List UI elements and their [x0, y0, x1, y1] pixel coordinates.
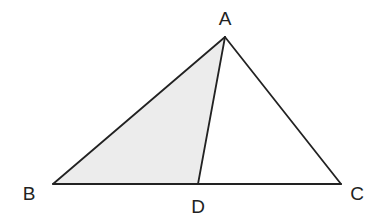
vertex-label-b: B — [23, 184, 36, 203]
segment-ac — [225, 37, 341, 184]
geometry-diagram: A B C D — [0, 0, 383, 218]
point-label-d: D — [191, 197, 205, 216]
vertex-label-c: C — [350, 184, 364, 203]
triangle-figure — [0, 0, 383, 218]
vertex-label-a: A — [219, 9, 232, 28]
